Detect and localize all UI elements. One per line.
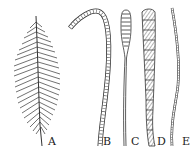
panel-label-d: D [157,136,166,147]
specimen-a-plume [14,16,60,146]
specimen-c-club [121,10,131,146]
specimen-d-banded [142,9,155,146]
specimen-b-hook [70,11,109,146]
panel-label-b: B [103,136,111,147]
panel-label-c: C [131,136,139,147]
specimen-e-strand [172,8,179,146]
panel-label-a: A [48,136,56,147]
panel-label-e: E [182,136,190,147]
